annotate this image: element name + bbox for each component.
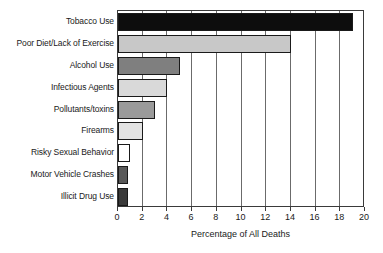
bar-motor-vehicle-crashes bbox=[118, 166, 128, 184]
tick-14 bbox=[290, 207, 291, 211]
tick-label-2: 2 bbox=[132, 212, 152, 223]
x-axis-title: Percentage of All Deaths bbox=[117, 228, 364, 240]
category-label: Tobacco Use bbox=[1, 16, 114, 26]
tick-label-16: 16 bbox=[305, 212, 325, 223]
bar-illicit-drug-use bbox=[118, 188, 128, 206]
category-axis-labels: Tobacco UsePoor Diet/Lack of ExerciseAlc… bbox=[0, 10, 114, 207]
category-label: Risky Sexual Behavior bbox=[1, 147, 114, 157]
bar-row bbox=[118, 188, 365, 206]
bar-row bbox=[118, 122, 365, 140]
tick-10 bbox=[241, 207, 242, 211]
category-label: Firearms bbox=[1, 125, 114, 135]
tick-18 bbox=[339, 207, 340, 211]
category-label: Poor Diet/Lack of Exercise bbox=[1, 38, 114, 48]
category-label: Motor Vehicle Crashes bbox=[1, 169, 114, 179]
category-label: Pollutants/toxins bbox=[1, 104, 114, 114]
bar-row bbox=[118, 101, 365, 119]
tick-label-6: 6 bbox=[181, 212, 201, 223]
bar-row bbox=[118, 166, 365, 184]
tick-6 bbox=[191, 207, 192, 211]
value-axis: 02468101214161820 bbox=[117, 207, 364, 227]
bar-row bbox=[118, 35, 365, 53]
category-label: Infectious Agents bbox=[1, 82, 114, 92]
bar-risky-sexual-behavior bbox=[118, 144, 130, 162]
tick-8 bbox=[216, 207, 217, 211]
bar-pollutants-toxins bbox=[118, 101, 155, 119]
tick-16 bbox=[315, 207, 316, 211]
bar-row bbox=[118, 13, 365, 31]
category-label: Illicit Drug Use bbox=[1, 191, 114, 201]
bar-poor-diet-lack-of-exercise bbox=[118, 35, 291, 53]
bar-firearms bbox=[118, 122, 143, 140]
tick-label-14: 14 bbox=[280, 212, 300, 223]
tick-label-0: 0 bbox=[107, 212, 127, 223]
tick-label-10: 10 bbox=[231, 212, 251, 223]
bar-row bbox=[118, 79, 365, 97]
tick-12 bbox=[265, 207, 266, 211]
tick-label-20: 20 bbox=[354, 212, 374, 223]
plot-area bbox=[117, 10, 364, 207]
bar-tobacco-use bbox=[118, 13, 353, 31]
tick-label-4: 4 bbox=[156, 212, 176, 223]
tick-label-8: 8 bbox=[206, 212, 226, 223]
tick-20 bbox=[364, 207, 365, 211]
bar-infectious-agents bbox=[118, 79, 167, 97]
tick-label-12: 12 bbox=[255, 212, 275, 223]
tick-2 bbox=[142, 207, 143, 211]
bar-row bbox=[118, 57, 365, 75]
bar-alcohol-use bbox=[118, 57, 180, 75]
tick-4 bbox=[166, 207, 167, 211]
tick-label-18: 18 bbox=[329, 212, 349, 223]
bar-row bbox=[118, 144, 365, 162]
tick-0 bbox=[117, 207, 118, 211]
bar-chart: Tobacco UsePoor Diet/Lack of ExerciseAlc… bbox=[0, 0, 383, 253]
category-label: Alcohol Use bbox=[1, 60, 114, 70]
